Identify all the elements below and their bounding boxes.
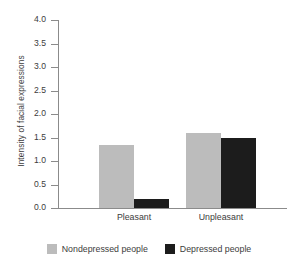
legend-swatch-icon [165, 244, 175, 254]
x-axis-category-label: Pleasant [84, 212, 184, 222]
legend-item: Depressed people [165, 244, 251, 254]
legend-label: Nondepressed people [62, 244, 148, 254]
legend-swatch-icon [47, 244, 57, 254]
x-axis-category-label: Unpleasant [171, 212, 271, 222]
bar-chart-figure: Intensity of facial expressions 0.00.51.… [0, 0, 298, 268]
bar [221, 138, 256, 209]
legend-item: Nondepressed people [47, 244, 148, 254]
bar [186, 133, 221, 208]
x-axis-line [58, 208, 287, 209]
bar [134, 199, 169, 208]
chart-legend: Nondepressed peopleDepressed people [0, 244, 298, 254]
y-axis-tick [51, 208, 58, 209]
bars-layer [0, 20, 298, 208]
bar [99, 145, 134, 208]
legend-label: Depressed people [180, 244, 251, 254]
